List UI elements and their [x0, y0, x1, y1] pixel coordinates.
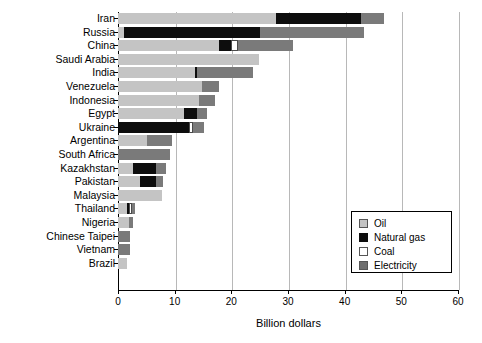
- bar-row: South Africa: [0, 148, 482, 161]
- stacked-bar-egypt[interactable]: [118, 108, 207, 119]
- x-tick-0: [118, 290, 119, 294]
- category-label-vietnam: Vietnam: [0, 243, 115, 256]
- category-label-iran: Iran: [0, 12, 115, 25]
- bar-segment-gas: [140, 176, 156, 187]
- chart-legend: Oil Natural gas Coal Electricity: [351, 211, 452, 273]
- bar-segment-elec: [202, 81, 220, 92]
- x-tick-label-20: 20: [216, 296, 246, 307]
- legend-swatch-natural-gas-icon: [359, 233, 368, 242]
- stacked-bar-argentina[interactable]: [118, 135, 172, 146]
- bar-segment-elec: [361, 13, 385, 24]
- bar-segment-oil: [118, 81, 202, 92]
- bar-row: Russia: [0, 26, 482, 39]
- bar-segment-elec: [118, 149, 170, 160]
- bar-segment-oil: [118, 176, 140, 187]
- bar-segment-elec: [147, 135, 172, 146]
- bar-segment-elec: [260, 27, 364, 38]
- stacked-bar-chinese-taipei[interactable]: [118, 231, 130, 242]
- bar-segment-elec: [118, 244, 130, 255]
- bar-segment-oil: [118, 54, 259, 65]
- bar-segment-elec: [197, 108, 207, 119]
- legend-label-electricity: Electricity: [374, 260, 417, 271]
- bar-segment-gas: [133, 163, 156, 174]
- bar-row: India: [0, 66, 482, 79]
- stacked-bar-malaysia[interactable]: [118, 190, 162, 201]
- stacked-bar-kazakhstan[interactable]: [118, 163, 166, 174]
- category-label-saudi-arabia: Saudi Arabia: [0, 53, 115, 66]
- bar-segment-oil: [118, 40, 219, 51]
- x-tick-label-50: 50: [386, 296, 416, 307]
- legend-swatch-oil-icon: [359, 219, 368, 228]
- stacked-bar-pakistan[interactable]: [118, 176, 163, 187]
- bar-segment-elec: [197, 67, 253, 78]
- x-tick-label-30: 30: [273, 296, 303, 307]
- category-label-egypt: Egypt: [0, 107, 115, 120]
- category-label-south-africa: South Africa: [0, 148, 115, 161]
- category-label-russia: Russia: [0, 26, 115, 39]
- bar-segment-oil: [118, 135, 147, 146]
- x-tick-20: [231, 290, 232, 294]
- x-axis-title: Billion dollars: [118, 317, 459, 329]
- category-label-pakistan: Pakistan: [0, 175, 115, 188]
- bar-segment-oil: [118, 190, 162, 201]
- bar-segment-elec: [118, 231, 130, 242]
- stacked-bar-nigeria[interactable]: [118, 217, 133, 228]
- stacked-bar-vietnam[interactable]: [118, 244, 130, 255]
- legend-label-coal: Coal: [374, 246, 395, 257]
- category-label-china: China: [0, 39, 115, 52]
- bar-segment-elec: [132, 203, 135, 214]
- stacked-bar-south-africa[interactable]: [118, 149, 170, 160]
- bar-segment-gas: [118, 122, 189, 133]
- bar-segment-elec: [156, 163, 166, 174]
- bar-row: Kazakhstan: [0, 162, 482, 175]
- bar-segment-oil: [118, 95, 199, 106]
- stacked-bar-brazil[interactable]: [118, 258, 127, 269]
- x-tick-label-0: 0: [103, 296, 133, 307]
- category-label-nigeria: Nigeria: [0, 216, 115, 229]
- bar-segment-coal: [231, 40, 238, 51]
- bar-segment-oil: [118, 203, 127, 214]
- stacked-bar-thailand[interactable]: [118, 203, 135, 214]
- bar-segment-elec: [199, 95, 215, 106]
- x-tick-label-40: 40: [330, 296, 360, 307]
- stacked-bar-ukraine[interactable]: [118, 122, 204, 133]
- stacked-bar-russia[interactable]: [118, 27, 364, 38]
- bar-segment-oil: [118, 13, 276, 24]
- stacked-bar-iran[interactable]: [118, 13, 384, 24]
- bar-row: Ukraine: [0, 121, 482, 134]
- x-tick-30: [288, 290, 289, 294]
- stacked-bar-venezuela[interactable]: [118, 81, 219, 92]
- bar-row: Malaysia: [0, 189, 482, 202]
- bar-row: Argentina: [0, 134, 482, 147]
- bar-segment-elec: [156, 176, 163, 187]
- bar-segment-gas: [184, 108, 197, 119]
- stacked-bar-india[interactable]: [118, 67, 253, 78]
- legend-item-coal: Coal: [359, 244, 451, 258]
- category-label-brazil: Brazil: [0, 257, 115, 270]
- bar-segment-oil: [118, 217, 129, 228]
- category-label-india: India: [0, 66, 115, 79]
- legend-item-electricity: Electricity: [359, 258, 451, 272]
- bar-row: Iran: [0, 12, 482, 25]
- legend-swatch-coal-icon: [359, 247, 368, 256]
- legend-swatch-electricity-icon: [359, 261, 368, 270]
- legend-label-oil: Oil: [374, 218, 386, 229]
- legend-label-natural-gas: Natural gas: [374, 232, 425, 243]
- category-label-argentina: Argentina: [0, 134, 115, 147]
- stacked-bar-china[interactable]: [118, 40, 293, 51]
- category-label-indonesia: Indonesia: [0, 94, 115, 107]
- bar-row: China: [0, 39, 482, 52]
- stacked-bar-indonesia[interactable]: [118, 95, 215, 106]
- stacked-bar-saudi-arabia[interactable]: [118, 54, 259, 65]
- bar-segment-oil: [118, 258, 127, 269]
- bar-row: Venezuela: [0, 80, 482, 93]
- bar-segment-gas: [124, 27, 260, 38]
- bar-segment-gas: [276, 13, 361, 24]
- stacked-bar-chart: IranRussiaChinaSaudi ArabiaIndiaVenezuel…: [0, 0, 482, 343]
- bar-segment-oil: [118, 163, 133, 174]
- x-tick-10: [175, 290, 176, 294]
- bar-row: Saudi Arabia: [0, 53, 482, 66]
- category-label-kazakhstan: Kazakhstan: [0, 162, 115, 175]
- category-label-malaysia: Malaysia: [0, 189, 115, 202]
- category-label-venezuela: Venezuela: [0, 80, 115, 93]
